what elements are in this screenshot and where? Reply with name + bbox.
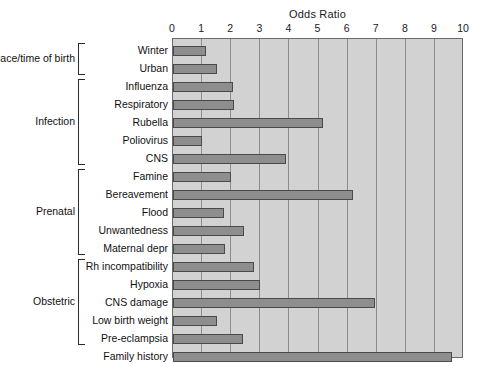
- x-axis-tick-4: 4: [285, 22, 291, 34]
- x-axis-tick-7: 7: [373, 22, 379, 34]
- x-axis-tick-2: 2: [227, 22, 233, 34]
- category-label-rubella: Rubella: [132, 115, 168, 129]
- plot-area: [172, 38, 463, 358]
- category-label-hypoxia: Hypoxia: [130, 277, 168, 291]
- category-label-rh-incompatibility: Rh incompatibility: [86, 259, 168, 273]
- gridline-7: [376, 39, 377, 357]
- bar-low-birth-weight: [173, 316, 217, 326]
- group-bracket-prenatal: [78, 169, 85, 255]
- bar-pre-eclampsia: [173, 334, 243, 344]
- bar-bereavement: [173, 190, 353, 200]
- category-label-column: WinterUrbanInfluenzaRespiratoryRubellaPo…: [0, 38, 170, 358]
- x-axis-tick-6: 6: [344, 22, 350, 34]
- bar-rh-incompatibility: [173, 262, 254, 272]
- category-label-low-birth-weight: Low birth weight: [92, 313, 168, 327]
- group-label-obstetric: Obstetric: [33, 295, 75, 308]
- category-label-winter: Winter: [138, 43, 168, 57]
- bar-hypoxia: [173, 280, 260, 290]
- x-axis-tick-9: 9: [431, 22, 437, 34]
- bar-urban: [173, 64, 217, 74]
- x-axis-tick-10: 10: [457, 22, 469, 34]
- category-label-respiratory: Respiratory: [114, 97, 168, 111]
- bar-famine: [173, 172, 231, 182]
- category-label-maternal-depr: Maternal depr: [103, 241, 168, 255]
- bar-influenza: [173, 82, 233, 92]
- x-axis-tick-1: 1: [198, 22, 204, 34]
- x-axis-tick-8: 8: [402, 22, 408, 34]
- bar-cns-damage: [173, 298, 375, 308]
- chart-title: Odds Ratio: [172, 8, 463, 20]
- category-label-influenza: Influenza: [125, 79, 168, 93]
- x-axis-tick-5: 5: [315, 22, 321, 34]
- category-label-cns: CNS: [146, 151, 168, 165]
- category-label-flood: Flood: [142, 205, 168, 219]
- x-axis-tick-0: 0: [169, 22, 175, 34]
- group-bracket-place-time-of-birth: [78, 43, 85, 75]
- category-label-unwantedness: Unwantedness: [99, 223, 168, 237]
- bar-maternal-depr: [173, 244, 225, 254]
- bar-flood: [173, 208, 224, 218]
- group-bracket-infection: [78, 79, 85, 165]
- odds-ratio-chart: Odds Ratio 012345678910 WinterUrbanInflu…: [0, 0, 477, 366]
- category-label-cns-damage: CNS damage: [105, 295, 168, 309]
- group-label-prenatal: Prenatal: [36, 205, 75, 218]
- category-label-poliovirus: Poliovirus: [122, 133, 168, 147]
- bar-rubella: [173, 118, 323, 128]
- bar-respiratory: [173, 100, 234, 110]
- category-label-urban: Urban: [139, 61, 168, 75]
- gridline-8: [405, 39, 406, 357]
- x-axis-tick-3: 3: [256, 22, 262, 34]
- x-axis-tick-labels: 012345678910: [172, 22, 463, 36]
- bar-family-history: [173, 352, 452, 362]
- bar-unwantedness: [173, 226, 244, 236]
- group-bracket-obstetric: [78, 259, 85, 345]
- group-label-infection: Infection: [35, 115, 75, 128]
- bar-cns: [173, 154, 286, 164]
- category-label-bereavement: Bereavement: [106, 187, 168, 201]
- category-label-famine: Famine: [133, 169, 168, 183]
- gridline-9: [434, 39, 435, 357]
- group-label-place-time-of-birth: Place/time of birth: [0, 52, 75, 65]
- bar-poliovirus: [173, 136, 202, 146]
- category-label-pre-eclampsia: Pre-eclampsia: [101, 331, 168, 345]
- bar-winter: [173, 46, 206, 56]
- category-label-family-history: Family history: [103, 349, 168, 363]
